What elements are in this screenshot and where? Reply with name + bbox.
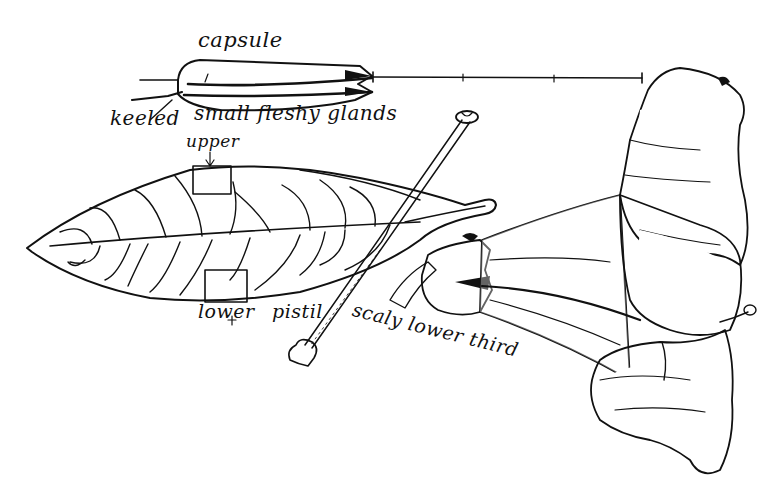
scale-bar (373, 72, 642, 83)
label-capsule: capsule (198, 30, 283, 51)
botanical-diagram: capsule keeled small fleshy glands upper… (0, 0, 780, 498)
label-pistil: pistil (272, 302, 323, 321)
flower-drawing (390, 68, 756, 473)
label-keeled: keeled (110, 108, 180, 128)
label-small-fleshy-glands: small fleshy glands (194, 103, 397, 123)
label-lower: lower (198, 302, 255, 321)
drawing-canvas (0, 0, 780, 498)
label-upper: upper (186, 133, 239, 150)
